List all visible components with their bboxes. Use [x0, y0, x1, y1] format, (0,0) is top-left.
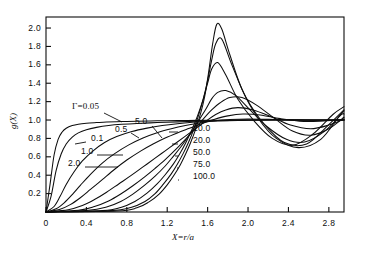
x-axis-title: X=r/a — [0, 232, 366, 242]
y-tick-label-7: 1.6 — [8, 59, 41, 69]
x-tick-label-5: 2.0 — [233, 218, 263, 228]
gamma-0-1-label: 0.1 — [91, 133, 103, 143]
gamma-10-0-label: 10.0 — [193, 123, 210, 133]
gamma-0-05-label: Γ=0.05 — [72, 101, 99, 111]
curve-gamma-100-0 — [46, 23, 344, 212]
y-tick-label-9: 2.0 — [8, 23, 41, 33]
gamma-0-5-label: 0.5 — [115, 124, 127, 134]
gamma-100-0-label: 100.0 — [193, 171, 215, 181]
gamma-75-0-label: 75.0 — [193, 159, 210, 169]
gamma-2-0-label: 2.0 — [68, 158, 80, 168]
curve-series-group — [46, 23, 344, 212]
gamma-0-5-leader — [131, 133, 139, 138]
plot-frame — [46, 17, 344, 212]
y-tick-label-1: 0.4 — [8, 170, 41, 180]
figure-radial-distribution-function: 0.20.40.60.81.01.21.41.61.82.0 00.40.81.… — [0, 0, 366, 253]
y-tick-label-5: 1.2 — [8, 96, 41, 106]
y-tick-label-2: 0.6 — [8, 151, 41, 161]
plot-canvas — [0, 0, 366, 253]
x-tick-label-4: 1.6 — [193, 218, 223, 228]
x-tick-label-0: 0 — [31, 218, 61, 228]
x-tick-label-6: 2.4 — [273, 218, 303, 228]
gamma-0-05-leader — [104, 113, 122, 122]
x-tick-label-1: 0.4 — [71, 218, 101, 228]
gamma-5-0-label: 5.0 — [135, 116, 147, 126]
gamma-20-0-label: 20.0 — [193, 135, 210, 145]
gamma-50-0-label: 50.0 — [193, 147, 210, 157]
x-tick-label-3: 1.2 — [152, 218, 182, 228]
y-tick-label-6: 1.4 — [8, 78, 41, 88]
x-tick-label-2: 0.8 — [112, 218, 142, 228]
y-tick-label-3: 0.8 — [8, 133, 41, 143]
y-tick-label-0: 0.2 — [8, 188, 41, 198]
gamma-0-1-leader — [75, 142, 86, 144]
plot-border — [46, 17, 344, 212]
x-tick-label-7: 2.8 — [314, 218, 344, 228]
gamma-1-0-label: 1.0 — [81, 146, 93, 156]
y-tick-label-8: 1.8 — [8, 41, 41, 51]
y-axis-title: g(X) — [8, 113, 18, 129]
